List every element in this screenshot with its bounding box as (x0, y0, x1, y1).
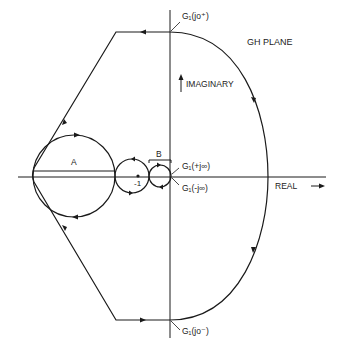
g-plus-jinf-label: G₁(+j∞) (182, 161, 210, 171)
outer-contour (33, 32, 269, 320)
bracket-b (149, 160, 171, 163)
circle-middle (115, 159, 149, 193)
imaginary-label: IMAGINARY (186, 79, 234, 89)
title-label: GH PLANE (247, 37, 293, 47)
circle-a (33, 135, 115, 217)
real-label: REAL (275, 181, 297, 191)
label-b: B (156, 149, 162, 159)
nyquist-diagram: GH PLANE IMAGINARY REAL A B -1 G₁(jo⁺) G… (0, 0, 340, 352)
minus-one-point (136, 174, 139, 177)
circle-b (149, 165, 171, 187)
label-a: A (71, 157, 77, 167)
g-jo-plus-label: G₁(jo⁺) (182, 11, 209, 21)
minus-one-label: -1 (134, 179, 142, 188)
g-jo-minus-label: G₁(jo⁻) (182, 326, 209, 336)
g-minus-jinf-label: G₁(-j∞) (182, 183, 208, 193)
